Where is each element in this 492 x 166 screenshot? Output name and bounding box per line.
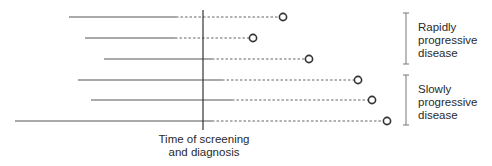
clinical-onset-circle-icon bbox=[354, 76, 361, 83]
clinical-onset-circle-icon bbox=[249, 34, 256, 41]
clinical-onset-circle-icon bbox=[368, 96, 375, 103]
slow-group-label: Slowly progressive disease bbox=[418, 83, 492, 122]
slow-label-line-3: disease bbox=[418, 109, 492, 122]
rapid-group-label: Rapidly progressive disease bbox=[418, 21, 492, 60]
clinical-onset-circle-icon bbox=[305, 55, 312, 62]
axis-label-line-2: and diagnosis bbox=[148, 146, 260, 159]
rapid-label-line-3: disease bbox=[418, 47, 492, 60]
slow-label-line-1: Slowly bbox=[418, 83, 492, 96]
clinical-onset-circle-icon bbox=[383, 117, 390, 124]
rapid-label-line-2: progressive bbox=[418, 34, 492, 47]
axis-label-line-1: Time of screening bbox=[148, 133, 260, 146]
screening-axis-label: Time of screening and diagnosis bbox=[148, 133, 260, 159]
slow-label-line-2: progressive bbox=[418, 96, 492, 109]
rapid-label-line-1: Rapidly bbox=[418, 21, 492, 34]
clinical-onset-circle-icon bbox=[279, 13, 286, 20]
